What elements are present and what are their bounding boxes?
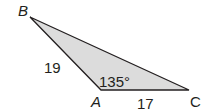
vertex-label-b: B — [18, 2, 28, 19]
angle-label-a: 135° — [99, 73, 130, 90]
vertex-label-a: A — [90, 93, 101, 110]
side-label-ab: 19 — [44, 59, 61, 76]
side-label-ac: 17 — [137, 95, 154, 112]
triangle-diagram: B A C 19 17 135° — [0, 0, 209, 112]
vertex-label-c: C — [190, 93, 201, 110]
